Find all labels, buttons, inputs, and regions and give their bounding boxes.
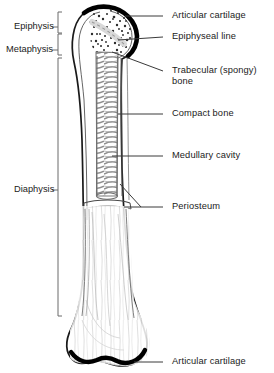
- region-label-epiphysis: Epiphysis: [14, 21, 54, 32]
- medullary-cavity-shape: [96, 52, 118, 199]
- callout-label-articular-cartilage-distal: Articular cartilage: [172, 356, 246, 367]
- bracket-metaphysis: [52, 34, 62, 55]
- callout-label-compact-bone: Compact bone: [172, 108, 234, 119]
- callout-label-articular-cartilage-proximal: Articular cartilage: [172, 10, 246, 21]
- callout-label-trabecular-bone: Trabecular (spongy): [172, 65, 257, 76]
- callout-label-medullary-cavity: Medullary cavity: [172, 150, 240, 161]
- region-brackets: [52, 12, 62, 316]
- region-label-metaphysis: Metaphysis: [6, 44, 53, 55]
- callout-label-epiphyseal-line: Epiphyseal line: [172, 31, 236, 42]
- bone-diagram-figure: Epiphysis Metaphysis Diaphysis Articular…: [0, 0, 274, 373]
- callout-label-periosteum: Periosteum: [172, 201, 220, 212]
- callout-label-trabecular-bone-line2: bone: [172, 76, 193, 87]
- distal-shaft-shading: [70, 206, 152, 368]
- region-label-diaphysis: Diaphysis: [14, 184, 54, 195]
